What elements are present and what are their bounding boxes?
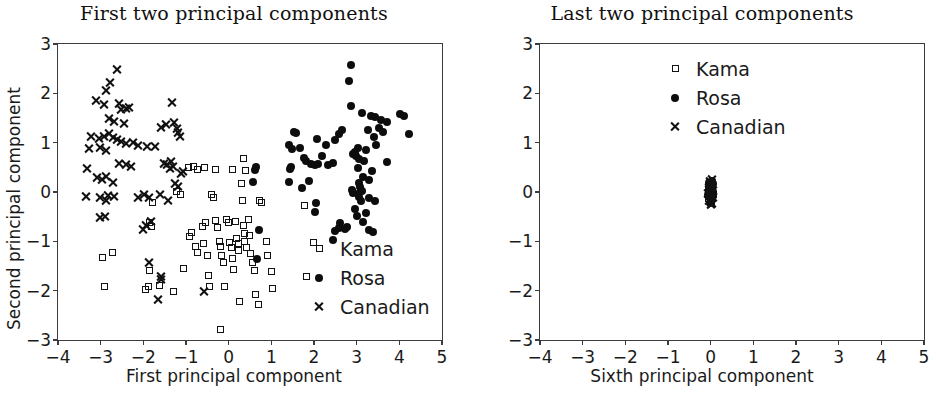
x-tick <box>399 340 400 345</box>
data-point-kama <box>210 194 217 201</box>
marker-cross-icon <box>670 121 681 132</box>
legend-left: KamaRosaCanadian <box>306 234 430 321</box>
data-point-canadian <box>198 286 209 297</box>
data-point-kama <box>264 252 271 259</box>
data-point-rosa <box>292 129 300 137</box>
y-tick <box>535 290 540 291</box>
data-point-rosa <box>305 177 313 185</box>
legend-item-rosa[interactable]: Rosa <box>662 83 786 112</box>
data-point-canadian <box>111 64 122 75</box>
y-tick <box>53 142 58 143</box>
legend-label: Canadian <box>332 296 430 318</box>
data-point-canadian <box>99 99 110 110</box>
data-point-kama <box>232 218 239 225</box>
data-point-rosa <box>253 255 261 263</box>
data-point-kama <box>194 249 201 256</box>
data-point-canadian <box>100 85 111 96</box>
data-point-rosa <box>347 102 355 110</box>
x-tick-label: −1 <box>655 347 680 367</box>
x-tick <box>795 340 796 345</box>
y-tick-label: −2 <box>26 281 51 301</box>
plot-axes-right: −4−3−2−1012345−3−2−10123 KamaRosaCanadia… <box>539 43 925 341</box>
x-tick-label: 3 <box>833 347 844 367</box>
data-point-kama <box>194 166 201 173</box>
x-tick-label: 0 <box>705 347 716 367</box>
x-tick-label: −2 <box>613 347 638 367</box>
data-point-rosa <box>400 112 408 120</box>
data-point-canadian <box>167 97 178 108</box>
data-point-canadian <box>172 181 183 192</box>
data-point-canadian <box>143 257 154 268</box>
data-point-rosa <box>360 157 368 165</box>
legend-label: Rosa <box>332 267 386 289</box>
data-point-rosa <box>338 126 346 134</box>
x-tick-label: 2 <box>791 347 802 367</box>
data-point-kama <box>251 267 258 274</box>
data-point-rosa <box>298 184 306 192</box>
data-point-canadian <box>706 199 717 210</box>
data-point-kama <box>214 224 221 231</box>
y-tick-label: 0 <box>522 182 533 202</box>
data-point-kama <box>201 164 208 171</box>
legend-item-canadian[interactable]: Canadian <box>662 112 786 141</box>
chart-title-right: Last two principal components <box>468 2 936 24</box>
data-point-canadian <box>174 131 185 142</box>
legend-item-kama[interactable]: Kama <box>306 234 430 263</box>
x-tick <box>185 340 186 345</box>
data-point-kama <box>202 219 209 226</box>
x-tick <box>838 340 839 345</box>
marker-cross-icon <box>314 301 325 312</box>
x-tick <box>923 340 924 345</box>
y-tick <box>535 43 540 44</box>
data-point-rosa <box>311 208 319 216</box>
panel-first-two-components: First two principal components −4−3−2−10… <box>0 0 468 394</box>
legend-marker-rosa <box>662 88 688 108</box>
legend-right: KamaRosaCanadian <box>662 54 786 141</box>
x-tick <box>57 340 58 345</box>
data-point-rosa <box>347 61 355 69</box>
data-point-kama <box>204 252 211 259</box>
data-point-canadian <box>80 191 91 202</box>
data-point-kama <box>142 286 149 293</box>
x-tick-label: −2 <box>131 347 156 367</box>
y-tick <box>53 93 58 94</box>
x-tick <box>753 340 754 345</box>
y-tick <box>53 339 58 340</box>
legend-item-rosa[interactable]: Rosa <box>306 263 430 292</box>
data-point-kama <box>252 291 259 298</box>
data-point-kama <box>109 249 116 256</box>
data-point-rosa <box>249 178 257 186</box>
x-tick-label: 5 <box>437 347 448 367</box>
data-point-kama <box>268 268 275 275</box>
marker-square-icon <box>316 245 323 252</box>
data-point-kama <box>269 285 276 292</box>
x-tick-label: −3 <box>88 347 113 367</box>
x-tick-label: 1 <box>748 347 759 367</box>
legend-item-kama[interactable]: Kama <box>662 54 786 83</box>
y-tick-label: −3 <box>508 330 533 350</box>
legend-label: Kama <box>688 58 750 80</box>
y-tick <box>535 142 540 143</box>
data-point-canadian <box>83 143 94 154</box>
data-point-rosa <box>288 145 296 153</box>
data-point-canadian <box>118 118 129 129</box>
data-point-rosa <box>359 218 367 226</box>
data-point-kama <box>229 166 236 173</box>
data-point-kama <box>301 202 308 209</box>
x-tick-label: 3 <box>351 347 362 367</box>
x-tick <box>271 340 272 345</box>
x-tick-label: 5 <box>919 347 930 367</box>
data-point-canadian <box>100 145 111 156</box>
data-point-kama <box>188 229 195 236</box>
x-tick-label: 4 <box>876 347 887 367</box>
legend-item-canadian[interactable]: Canadian <box>306 292 430 321</box>
data-point-rosa <box>296 144 304 152</box>
y-tick-label: 2 <box>40 83 51 103</box>
data-point-rosa <box>331 136 339 144</box>
data-point-kama <box>220 259 227 266</box>
data-point-rosa <box>318 152 326 160</box>
data-point-rosa <box>343 223 351 231</box>
data-point-rosa <box>357 197 365 205</box>
data-point-kama <box>200 240 207 247</box>
x-tick <box>100 340 101 345</box>
